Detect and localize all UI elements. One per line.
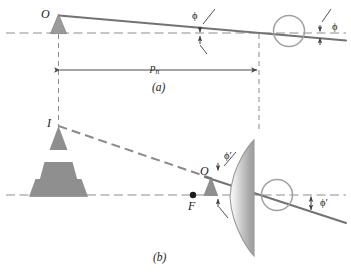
optics-figure: O ϕ ϕ pn (a) I O F ϕ′ ϕ′ (b) [0,0,351,277]
panel-b-converging-lens [230,140,254,256]
panel-a-distance-label: pn [150,62,159,76]
panel-a-angle-phi-label: ϕ [192,11,198,22]
panel-b-focal-point-label: F [188,200,195,212]
panel-b-image-label: I [47,117,51,129]
panel-b-caption: (b) [153,252,166,264]
panel-b-image-band-bottom-main [29,179,88,197]
figure-canvas [0,0,351,277]
panel-a-group [6,9,346,131]
panel-a-object-arrow [51,14,67,33]
panel-a-angle-leader-lower [200,45,207,54]
panel-b-angle-leader-lower [219,207,228,218]
panel-a-eye-circle [274,16,305,47]
panel-b-focal-point [190,192,196,198]
panel-b-object-label: O [200,165,209,177]
panel-b-virtual-ray [59,126,213,179]
panel-b-image-band-top [50,126,68,150]
panel-a-outer-angle-leader [322,9,331,22]
panel-a-object-label: O [41,8,50,20]
distance-subscript: n [156,67,160,76]
panel-b-outer-angle-phi-prime-label: ϕ′ [320,198,328,209]
panel-a-angle-leader-upper [203,9,215,24]
panel-a-caption: (a) [152,82,165,94]
panel-b-group [6,126,346,256]
panel-a-outer-angle-phi-label: ϕ [332,22,338,33]
panel-b-angle-phi-prime-label: ϕ′ [224,151,232,162]
